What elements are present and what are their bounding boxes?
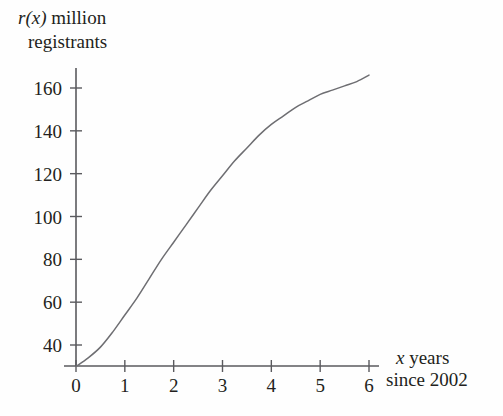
x-axis-tick-label: 1 [120, 375, 130, 396]
x-axis-tick-label: 4 [267, 375, 277, 396]
chart-figure: r(x) million registrants x years since 2… [0, 0, 503, 416]
y-axis-ticks: 406080100120140160 [34, 78, 83, 356]
data-curve [76, 75, 369, 366]
x-axis-tick-label: 3 [218, 375, 228, 396]
x-axis-tick-label: 5 [315, 375, 325, 396]
x-axis-tick-label: 0 [71, 375, 81, 396]
axes-group [64, 68, 379, 366]
x-axis-tick-label: 2 [169, 375, 179, 396]
plot-area: 406080100120140160 0123456 [0, 0, 503, 416]
y-axis-tick-label: 80 [43, 249, 62, 270]
y-axis-tick-label: 100 [34, 207, 63, 228]
y-axis-tick-label: 120 [34, 164, 63, 185]
y-axis-tick-label: 160 [34, 78, 63, 99]
y-axis-tick-label: 60 [43, 292, 62, 313]
y-axis-tick-label: 40 [43, 335, 62, 356]
x-axis-tick-label: 6 [364, 375, 374, 396]
y-axis-tick-label: 140 [34, 121, 63, 142]
